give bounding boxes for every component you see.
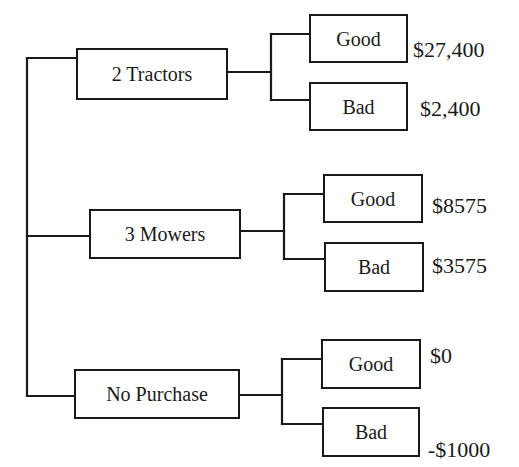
outcome-box-no-purchase-good: Good: [321, 339, 421, 389]
payoff-no-purchase-bad: -$1000: [428, 439, 490, 461]
outcome-box-mowers-bad: Bad: [324, 242, 424, 292]
outcome-label: Good: [351, 189, 395, 209]
outcome-box-tractors-bad: Bad: [309, 82, 408, 131]
payoff-mowers-bad: $3575: [432, 255, 487, 277]
option-box-no-purchase: No Purchase: [74, 369, 240, 419]
outcome-label: Bad: [342, 97, 374, 117]
payoff-tractors-bad: $2,400: [420, 98, 481, 120]
payoff-no-purchase-good: $0: [430, 345, 452, 367]
option-box-2-tractors: 2 Tractors: [76, 48, 228, 100]
outcome-label: Bad: [355, 422, 387, 442]
outcome-label: Good: [336, 29, 380, 49]
option-box-3-mowers: 3 Mowers: [89, 209, 241, 259]
decision-tree-diagram: 2 Tractors Good Bad $27,400 $2,400 3 Mow…: [0, 0, 519, 467]
option-label: 3 Mowers: [125, 224, 206, 244]
outcome-box-no-purchase-bad: Bad: [322, 407, 420, 457]
option-label: 2 Tractors: [112, 64, 193, 84]
payoff-mowers-good: $8575: [432, 195, 487, 217]
outcome-box-mowers-good: Good: [323, 174, 423, 223]
outcome-label: Bad: [358, 257, 390, 277]
outcome-box-tractors-good: Good: [309, 14, 408, 63]
option-label: No Purchase: [106, 384, 208, 404]
outcome-label: Good: [349, 354, 393, 374]
payoff-tractors-good: $27,400: [413, 39, 485, 61]
